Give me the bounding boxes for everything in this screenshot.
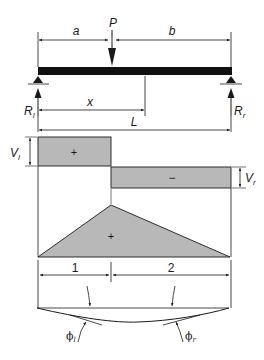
label-L: L (131, 115, 138, 129)
shear-negative-sign: − (168, 171, 175, 185)
label-phi-right: ϕr (185, 330, 197, 344)
label-phi-left: ϕl (66, 330, 76, 344)
centroid-arrow-1-icon (87, 286, 90, 306)
label-P: P (109, 16, 117, 30)
label-segment-2: 2 (168, 261, 175, 275)
label-b: b (169, 24, 176, 38)
deflection-diagram: ϕl ϕr (37, 286, 229, 344)
right-support-icon (220, 76, 242, 84)
label-reaction-right: Rr (234, 104, 246, 120)
tangent-left (70, 315, 102, 325)
beam (38, 67, 232, 75)
label-x: x (86, 95, 94, 109)
label-a: a (73, 24, 80, 38)
moment-triangle (38, 205, 230, 257)
slope-arrow-left-icon (78, 322, 86, 342)
load-arrow-head-icon (108, 48, 116, 66)
label-reaction-left: Rl (24, 104, 35, 120)
right-reaction-arrow-icon (228, 88, 235, 98)
label-segment-1: 1 (72, 261, 79, 275)
centroid-arrow-2-icon (172, 286, 175, 306)
label-Vr: Vr (245, 171, 256, 187)
moment-sign: + (108, 230, 114, 242)
moment-diagram: + 1 2 (38, 205, 231, 308)
left-support-icon (28, 76, 49, 84)
label-Vl: Vl (10, 146, 20, 162)
shear-positive-sign: + (71, 146, 77, 158)
left-reaction-arrow-icon (35, 88, 42, 98)
slope-arrow-right-icon (176, 322, 183, 342)
deflected-curve (37, 308, 229, 322)
beam-diagram: a b P Rl Rr x (0, 0, 264, 360)
load-diagram: a b P Rl Rr x (24, 16, 246, 132)
